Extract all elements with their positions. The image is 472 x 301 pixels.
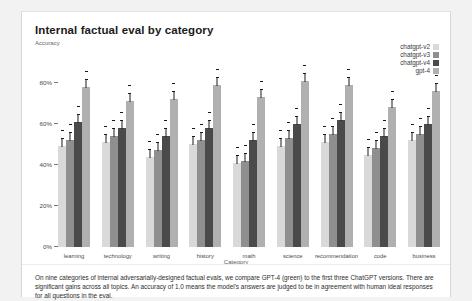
error-bar-cap-top [295, 108, 298, 109]
error-bar-cap-bottom [128, 93, 131, 94]
bar-history-gpt-4[interactable] [213, 62, 221, 247]
bar-math-chatgpt-v2[interactable] [233, 62, 241, 247]
bar-history-chatgpt-v4[interactable] [205, 62, 213, 247]
error-bar-cap-bottom [120, 120, 123, 121]
error-bar-cap-bottom [391, 99, 394, 100]
bar-rect [74, 122, 82, 247]
bar-science-gpt-4[interactable] [301, 62, 309, 247]
bar-group-recommendation: recommendation [321, 62, 353, 247]
error-bar [193, 136, 194, 145]
legend-item-chatgpt-v2[interactable]: chatgpt-v2 [400, 43, 439, 50]
bar-code-chatgpt-v2[interactable] [364, 62, 372, 247]
error-bar-cap-top [339, 104, 342, 105]
bar-rect [170, 99, 178, 247]
bar-business-gpt-4[interactable] [432, 62, 440, 247]
bar-math-chatgpt-v3[interactable] [241, 62, 249, 247]
error-bar-cap-top [104, 126, 107, 127]
error-bar-cap-bottom [331, 126, 334, 127]
y-axis-tick: 40% [25, 161, 58, 169]
bar-learning-chatgpt-v2[interactable] [58, 62, 66, 247]
bar-recommendation-chatgpt-v2[interactable] [321, 62, 329, 247]
legend-item-chatgpt-v3[interactable]: chatgpt-v3 [400, 51, 439, 58]
bar-rect [82, 87, 90, 247]
error-bar-cap-bottom [112, 128, 115, 129]
error-bar-cap-top [435, 75, 438, 76]
error-bar-cap-top [192, 128, 195, 129]
error-bar-cap-bottom [69, 132, 72, 133]
bar-writing-chatgpt-v2[interactable] [146, 62, 154, 247]
bar-science-chatgpt-v2[interactable] [277, 62, 285, 247]
bar-recommendation-gpt-4[interactable] [345, 62, 353, 247]
bar-rect [102, 142, 110, 247]
error-bar-cap-top [236, 147, 239, 148]
bar-technology-chatgpt-v2[interactable] [102, 62, 110, 247]
error-bar-cap-bottom [323, 134, 326, 135]
bar-rect [249, 140, 257, 247]
error-bar [129, 93, 130, 102]
error-bar-cap-bottom [164, 128, 167, 129]
error-bar [201, 132, 202, 141]
bar-rect [277, 146, 285, 247]
y-axis-tick: 60% [25, 120, 58, 128]
error-bar-cap-top [244, 145, 247, 146]
y-axis-tick-label: 80% [40, 79, 52, 86]
bar-code-chatgpt-v3[interactable] [372, 62, 380, 247]
error-bar-cap-bottom [347, 77, 350, 78]
error-bar-cap-bottom [419, 126, 422, 127]
error-bar-cap-bottom [61, 138, 64, 139]
bar-technology-gpt-4[interactable] [126, 62, 134, 247]
error-bar-cap-top [85, 71, 88, 72]
error-bar [280, 138, 281, 147]
bar-code-chatgpt-v4[interactable] [380, 62, 388, 247]
bar-group-code: code [364, 62, 396, 247]
error-bar-cap-bottom [287, 130, 290, 131]
error-bar [332, 126, 333, 135]
error-bar [86, 79, 87, 88]
error-bar [149, 149, 150, 158]
bar-groups: learningtechnologywritinghistorymathscie… [58, 62, 440, 247]
bar-recommendation-chatgpt-v4[interactable] [337, 62, 345, 247]
bar-group-math: math [233, 62, 265, 247]
error-bar-cap-bottom [148, 149, 151, 150]
bar-rect [372, 148, 380, 247]
bar-group-history: history [189, 62, 221, 247]
bar-business-chatgpt-v3[interactable] [416, 62, 424, 247]
error-bar-cap-bottom [236, 155, 239, 156]
bar-science-chatgpt-v3[interactable] [285, 62, 293, 247]
error-bar-cap-bottom [216, 77, 219, 78]
bar-group-science: science [277, 62, 309, 247]
bar-learning-chatgpt-v4[interactable] [74, 62, 82, 247]
bar-learning-gpt-4[interactable] [82, 62, 90, 247]
bar-math-gpt-4[interactable] [257, 62, 265, 247]
bar-business-chatgpt-v4[interactable] [424, 62, 432, 247]
error-bar [436, 83, 437, 92]
bar-technology-chatgpt-v4[interactable] [118, 62, 126, 247]
error-bar [209, 120, 210, 129]
bar-recommendation-chatgpt-v3[interactable] [329, 62, 337, 247]
error-bar-cap-bottom [383, 128, 386, 129]
bar-history-chatgpt-v2[interactable] [189, 62, 197, 247]
bar-code-gpt-4[interactable] [388, 62, 396, 247]
error-bar-cap-top [252, 124, 255, 125]
error-bar-cap-top [61, 130, 64, 131]
bar-history-chatgpt-v3[interactable] [197, 62, 205, 247]
bar-business-chatgpt-v2[interactable] [408, 62, 416, 247]
bar-group-learning: learning [58, 62, 90, 247]
bar-rect [66, 140, 74, 247]
bar-rect [189, 144, 197, 247]
y-axis-tick-label: 0% [43, 243, 52, 250]
error-bar-cap-bottom [192, 136, 195, 137]
error-bar-cap-bottom [279, 138, 282, 139]
y-axis-tick-label: 40% [40, 161, 52, 168]
error-bar-cap-bottom [367, 147, 370, 148]
bar-learning-chatgpt-v3[interactable] [66, 62, 74, 247]
bar-writing-chatgpt-v4[interactable] [162, 62, 170, 247]
error-bar [412, 132, 413, 141]
bar-writing-chatgpt-v3[interactable] [154, 62, 162, 247]
bar-science-chatgpt-v4[interactable] [293, 62, 301, 247]
bar-writing-gpt-4[interactable] [170, 62, 178, 247]
bar-math-chatgpt-v4[interactable] [249, 62, 257, 247]
bar-technology-chatgpt-v3[interactable] [110, 62, 118, 247]
bar-rect [416, 134, 424, 247]
legend-label: chatgpt-v2 [400, 43, 430, 50]
